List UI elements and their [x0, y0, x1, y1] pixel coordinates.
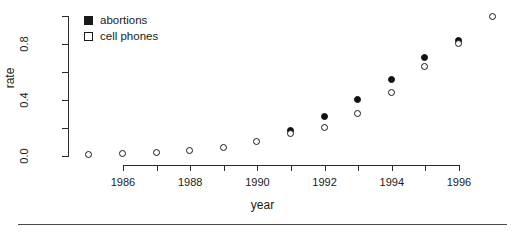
y-tick [62, 156, 69, 157]
x-tick [392, 165, 393, 171]
y-tick-label: 0.4 [19, 92, 30, 107]
legend-item: abortions [84, 13, 158, 27]
figure-scatter-plot: 0.00.40.8 rate 198619881990199219941996 … [0, 0, 525, 236]
data-point-cell-phones [388, 89, 395, 96]
x-tick [459, 165, 460, 171]
x-tick [358, 165, 359, 171]
legend-item-label: abortions [100, 14, 147, 26]
x-tick-label: 1994 [367, 176, 417, 188]
x-tick [123, 165, 124, 171]
legend-item-label: cell phones [100, 30, 158, 42]
x-tick [257, 165, 258, 171]
x-tick-label: 1988 [165, 176, 215, 188]
x-tick [157, 165, 158, 171]
x-axis-title: year [0, 199, 525, 211]
x-tick [325, 165, 326, 171]
y-tick [62, 100, 69, 101]
y-tick [62, 16, 69, 17]
x-tick-label: 1986 [98, 176, 148, 188]
y-tick [62, 128, 69, 129]
data-point-cell-phones [489, 13, 496, 20]
x-tick [190, 165, 191, 171]
x-tick-label: 1992 [300, 176, 350, 188]
data-point-cell-phones [85, 151, 92, 158]
filled-square-icon [84, 16, 93, 25]
x-tick-label: 1996 [434, 176, 484, 188]
x-tick [425, 165, 426, 171]
y-axis-title: rate [4, 68, 16, 89]
x-tick [224, 165, 225, 171]
chart-legend: abortionscell phones [84, 13, 158, 43]
data-point-cell-phones [455, 40, 462, 47]
data-point-cell-phones [321, 124, 328, 131]
open-square-icon [84, 32, 93, 41]
bottom-divider [18, 224, 507, 225]
data-point-cell-phones [153, 149, 160, 156]
y-tick-label: 0.8 [19, 36, 30, 51]
x-tick-label: 1990 [232, 176, 282, 188]
y-tick [62, 44, 69, 45]
y-tick [62, 72, 69, 73]
legend-item: cell phones [84, 29, 158, 43]
y-tick-label: 0.0 [19, 148, 30, 163]
data-point-cell-phones [119, 150, 126, 157]
x-tick [291, 165, 292, 171]
data-point-abortions [321, 113, 328, 120]
